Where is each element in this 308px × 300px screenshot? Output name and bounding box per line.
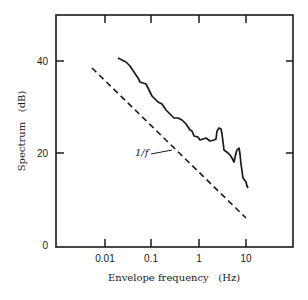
x-axis xyxy=(105,15,246,247)
y-tick-label: 0 xyxy=(42,240,48,251)
x-tick-label: 0.1 xyxy=(144,253,158,264)
x-tick-label: 0.01 xyxy=(95,253,115,264)
annotation-label: 1/f xyxy=(135,147,151,158)
chart: 40 20 0 0.01 0.1 1 10 Envelope frequency… xyxy=(0,0,308,300)
annotation-pointer xyxy=(151,150,172,154)
x-tick-label: 1 xyxy=(196,253,202,264)
y-axis xyxy=(56,61,293,153)
x-tick-label: 10 xyxy=(240,253,252,264)
y-axis-title: Spectrum (dB) xyxy=(16,91,27,172)
plot-frame xyxy=(56,15,293,247)
x-axis-title: Envelope frequency (Hz) xyxy=(108,272,240,283)
y-tick-label: 40 xyxy=(37,56,49,67)
spectrum-curve xyxy=(118,58,248,188)
y-tick-label: 20 xyxy=(37,148,49,159)
